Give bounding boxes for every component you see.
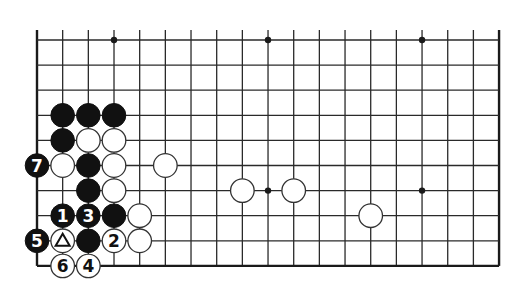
white-stone-icon [102,154,126,178]
black-stone [51,129,75,153]
black-stone: 5 [25,229,49,253]
move-number-label: 1 [57,206,69,226]
white-stone [51,229,75,253]
white-stone [128,229,152,253]
black-stone [77,229,101,253]
go-board: 7135264 [0,0,527,293]
move-number-label: 7 [31,156,43,176]
white-stone-icon [128,204,152,228]
white-stone-icon [77,129,101,153]
black-stone [77,154,101,178]
black-stone-icon [77,104,101,128]
black-stone: 7 [25,154,49,178]
black-stone-icon [102,204,126,228]
star-point-icon [265,187,271,193]
black-stone-icon [51,104,75,128]
black-stone [77,179,101,203]
white-stone: 6 [51,254,75,278]
white-stone: 2 [102,229,126,253]
white-stone [77,129,101,153]
move-number-label: 4 [82,256,94,276]
star-point-icon [111,37,117,43]
white-stone-icon [102,129,126,153]
black-stone: 3 [77,204,101,228]
white-stone [102,179,126,203]
white-stone-icon [102,179,126,203]
black-stone-icon [77,154,101,178]
black-stone-icon [77,179,101,203]
white-stone: 4 [77,254,101,278]
white-stone [231,179,255,203]
move-number-label: 5 [31,231,43,251]
white-stone-icon [128,229,152,253]
black-stone [51,104,75,128]
black-stone-icon [102,104,126,128]
star-point-icon [419,187,425,193]
black-stone-icon [77,229,101,253]
white-stone-icon [154,154,178,178]
white-stone-icon [282,179,306,203]
white-stone [102,129,126,153]
white-stone [359,204,383,228]
white-stone [282,179,306,203]
white-stone [128,204,152,228]
star-point-icon [265,37,271,43]
black-stone: 1 [51,204,75,228]
star-point-icon [419,37,425,43]
black-stone [102,104,126,128]
white-stone-icon [359,204,383,228]
white-stone [154,154,178,178]
white-stone [51,154,75,178]
move-number-label: 3 [82,206,94,226]
move-number-label: 2 [108,231,120,251]
white-stone-icon [51,154,75,178]
white-stone-icon [231,179,255,203]
white-stone [102,154,126,178]
black-stone [77,104,101,128]
black-stone [102,204,126,228]
black-stone-icon [51,129,75,153]
move-number-label: 6 [57,256,69,276]
